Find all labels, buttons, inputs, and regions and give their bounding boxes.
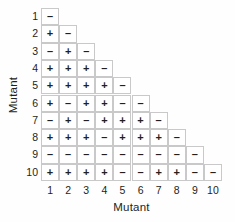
y-tick-label-8: 8	[16, 129, 38, 146]
matrix-cell-7-5: +	[113, 112, 131, 129]
matrix-cell-4-2: +	[59, 60, 77, 77]
matrix-cell-9-2: –	[59, 146, 77, 163]
x-axis-tick-labels: 12345678910	[41, 183, 222, 197]
matrix-cell-10-2: +	[59, 164, 77, 181]
x-tick-label-5: 5	[113, 183, 131, 197]
matrix-cell-5-1: +	[41, 77, 59, 94]
matrix-cell-10-4: +	[95, 164, 113, 181]
matrix-cell-7-3: –	[77, 112, 95, 129]
matrix-cell-6-3: +	[77, 95, 95, 112]
matrix-cell-7-6: +	[132, 112, 150, 129]
matrix-cell-4-1: +	[41, 60, 59, 77]
matrix-cell-10-7: +	[150, 164, 168, 181]
matrix-cell-8-1: +	[41, 129, 59, 146]
matrix-row: +–++––	[41, 95, 150, 112]
matrix-row: –+–	[41, 43, 95, 60]
matrix-cell-8-5: +	[113, 129, 131, 146]
matrix-row: +++–	[41, 60, 113, 77]
matrix-cell-5-4: +	[95, 77, 113, 94]
matrix-cell-8-6: +	[132, 129, 150, 146]
x-tick-label-6: 6	[132, 183, 150, 197]
matrix-row: +–	[41, 25, 77, 42]
y-tick-label-9: 9	[16, 146, 38, 163]
y-tick-label-5: 5	[16, 77, 38, 94]
matrix-row: +++–+++–	[41, 129, 186, 146]
matrix-cell-10-6: –	[132, 164, 150, 181]
matrix-cell-7-7: –	[150, 112, 168, 129]
matrix-cell-9-9: –	[186, 146, 204, 163]
matrix-cell-5-3: +	[77, 77, 95, 94]
matrix-cell-9-8: –	[168, 146, 186, 163]
matrix-cell-6-1: +	[41, 95, 59, 112]
x-axis-label: Mutant	[41, 201, 222, 213]
matrix-cell-4-4: –	[95, 60, 113, 77]
matrix-cell-10-1: +	[41, 164, 59, 181]
matrix-cell-1-1: –	[41, 8, 59, 25]
x-tick-label-7: 7	[150, 183, 168, 197]
matrix-cell-7-2: +	[59, 112, 77, 129]
matrix-cell-3-3: –	[77, 43, 95, 60]
matrix-cell-10-10: –	[204, 164, 222, 181]
y-tick-label-4: 4	[16, 60, 38, 77]
matrix-cell-9-7: –	[150, 146, 168, 163]
matrix-cell-8-2: +	[59, 129, 77, 146]
y-axis-tick-labels: 12345678910	[16, 8, 38, 181]
x-tick-label-8: 8	[168, 183, 186, 197]
matrix-cell-6-6: –	[132, 95, 150, 112]
x-tick-label-10: 10	[204, 183, 222, 197]
matrix-cell-8-7: +	[150, 129, 168, 146]
y-tick-label-10: 10	[16, 164, 38, 181]
matrix-cell-10-3: +	[77, 164, 95, 181]
matrix-cell-6-5: –	[113, 95, 131, 112]
matrix-row: ++++––++––	[41, 164, 222, 181]
matrix-cell-5-5: –	[113, 77, 131, 94]
matrix-grid: –+––+–+++–++++–+–++–––+–+++–+++–+++–––––…	[41, 8, 222, 181]
matrix-row: –––––––––	[41, 146, 204, 163]
matrix-row: ++++–	[41, 77, 132, 94]
y-tick-label-6: 6	[16, 95, 38, 112]
matrix-cell-5-2: +	[59, 77, 77, 94]
matrix-cell-9-3: –	[77, 146, 95, 163]
x-tick-label-3: 3	[77, 183, 95, 197]
y-tick-label-3: 3	[16, 43, 38, 60]
matrix-cell-10-8: +	[168, 164, 186, 181]
matrix-cell-2-2: –	[59, 25, 77, 42]
x-tick-label-1: 1	[41, 183, 59, 197]
matrix-cell-8-8: –	[168, 129, 186, 146]
x-tick-label-4: 4	[95, 183, 113, 197]
matrix-cell-8-4: –	[95, 129, 113, 146]
matrix-cell-9-4: –	[95, 146, 113, 163]
complementation-matrix-figure: Mutant 12345678910 –+––+–+++–++++–+–++––…	[0, 0, 235, 222]
matrix-cell-7-4: +	[95, 112, 113, 129]
matrix-cell-6-2: –	[59, 95, 77, 112]
y-tick-label-2: 2	[16, 25, 38, 42]
matrix-row: –	[41, 8, 59, 25]
y-tick-label-7: 7	[16, 112, 38, 129]
matrix-cell-7-1: –	[41, 112, 59, 129]
y-tick-label-1: 1	[16, 8, 38, 25]
matrix-cell-2-1: +	[41, 25, 59, 42]
matrix-cell-8-3: +	[77, 129, 95, 146]
matrix-cell-10-5: –	[113, 164, 131, 181]
matrix-cell-3-2: +	[59, 43, 77, 60]
matrix-cell-10-9: –	[186, 164, 204, 181]
matrix-cell-9-6: –	[132, 146, 150, 163]
matrix-cell-9-5: –	[113, 146, 131, 163]
matrix-cell-3-1: –	[41, 43, 59, 60]
x-tick-label-2: 2	[59, 183, 77, 197]
matrix-cell-6-4: +	[95, 95, 113, 112]
x-tick-label-9: 9	[186, 183, 204, 197]
matrix-row: –+–+++–	[41, 112, 168, 129]
matrix-cell-4-3: +	[77, 60, 95, 77]
matrix-cell-9-1: –	[41, 146, 59, 163]
